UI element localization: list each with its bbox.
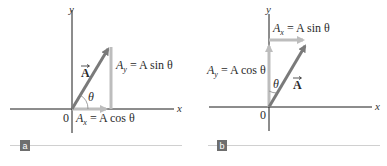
angle-arc xyxy=(80,95,88,109)
origin-label: 0 xyxy=(63,111,69,125)
vector-a-label: A xyxy=(293,78,302,92)
panel-b: x y θ A Ax = A sin θ Ay = A cos θ 0 b xyxy=(206,3,380,151)
y-axis-label: y xyxy=(265,3,271,15)
x-axis-label: x xyxy=(374,100,380,112)
panel-tag-label: b xyxy=(220,141,225,151)
origin-label: 0 xyxy=(260,108,266,122)
x-component-label: Ax = A cos θ xyxy=(75,111,135,127)
x-axis-label: x xyxy=(176,102,182,114)
vector-components-figure: x y θ A Ay = A sin θ 0 Ax = A cos θ a xyxy=(0,0,387,166)
y-axis-label: y xyxy=(68,3,74,15)
vector-a-label: A xyxy=(81,66,90,80)
panel-tag-label: a xyxy=(23,141,28,151)
y-component-label: Ay = A cos θ xyxy=(206,63,266,79)
y-component-label: Ay = A sin θ xyxy=(115,58,173,74)
x-component-label: Ax = A sin θ xyxy=(272,21,330,37)
angle-theta-label: θ xyxy=(88,90,94,104)
panel-a: x y θ A Ay = A sin θ 0 Ax = A cos θ a xyxy=(10,3,182,151)
angle-theta-label: θ xyxy=(273,77,279,91)
